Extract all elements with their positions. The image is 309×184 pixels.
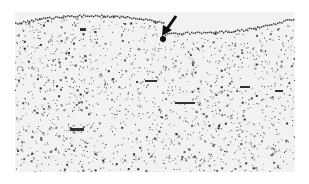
arrow-annotation-icon	[0, 0, 309, 184]
